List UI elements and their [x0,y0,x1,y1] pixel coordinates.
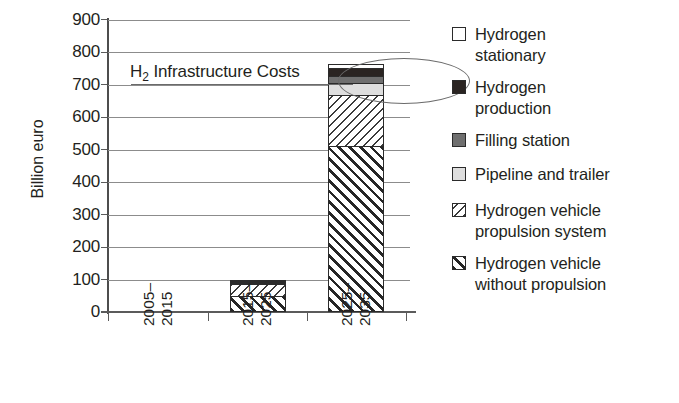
legend-label-line1: Pipeline and trailer [475,164,610,185]
legend-label-filling-station: Filling station [475,130,570,151]
y-axis-tick-labels: 900 800 700 600 500 400 300 200 100 0 [46,0,100,403]
gridline-900 [108,20,410,21]
x-axis-label-2025-2035-b: 2035 [356,326,426,396]
annotation-leader-line [131,84,353,85]
legend-item-pipeline-and-trailer[interactable]: Pipeline and trailer [452,164,679,185]
x-axis-label-2005-2015-line1: 2005– [140,256,158,326]
annotation-ellipse-highlight [338,58,470,104]
segment-hydrogen-vehicle-propulsion-system [328,95,384,146]
y-tick-label-600: 600 [56,108,100,125]
legend-label-line2: without propulsion [475,274,606,295]
y-tick-label-700: 700 [56,76,100,93]
x-axis-label-2005-2015-b: 2015 [158,326,228,396]
x-axis-label-2005-2015-line2: 2015 [158,256,176,326]
light-gray-swatch-icon [452,167,466,181]
annotation-text-subscript: 2 [142,70,149,84]
legend-item-filling-station[interactable]: Filling station [452,130,679,151]
legend-label-line1: Hydrogen vehicle [475,253,606,274]
gridline-800 [108,52,410,53]
y-tick-label-0: 0 [56,303,100,320]
stacked-bar-chart-figure: 900 800 700 600 500 400 300 200 100 0 Bi… [0,0,679,403]
x-axis-label-2015-2025-b: 2025 [257,326,327,396]
x-tick-mark [406,312,407,321]
legend-label-line1: Hydrogen [475,77,551,98]
backward-hatch-swatch-icon [452,203,466,217]
legend-label-hydrogen-vehicle-propulsion-system: Hydrogen vehicle propulsion system [475,200,606,242]
white-swatch-icon [452,27,466,41]
y-tick-label-200: 200 [56,238,100,255]
chart-legend: Hydrogen stationary Hydrogen production … [452,24,679,306]
y-tick-label-400: 400 [56,173,100,190]
legend-item-hydrogen-vehicle-propulsion-system[interactable]: Hydrogen vehicle propulsion system [452,200,679,242]
x-axis-label-2025-2035-line2: 2035 [356,256,374,326]
forward-hatch-swatch-icon [452,256,466,270]
x-axis-label-2015-2025-line2: 2025 [257,256,275,326]
x-tick-mark [108,312,109,321]
legend-label-line2: stationary [475,45,546,66]
y-axis-title: Billion euro [29,59,47,259]
legend-label-line2: propulsion system [475,221,606,242]
legend-label-hydrogen-vehicle-without-propulsion: Hydrogen vehicle without propulsion [475,253,606,295]
legend-label-line1: Hydrogen vehicle [475,200,606,221]
black-swatch-icon [452,80,466,94]
annotation-text-suffix: Infrastructure Costs [149,62,300,81]
legend-label-line1: Filling station [475,130,570,151]
legend-label-line2: production [475,98,551,119]
legend-item-hydrogen-vehicle-without-propulsion[interactable]: Hydrogen vehicle without propulsion [452,253,679,295]
y-tick-label-500: 500 [56,141,100,158]
x-tick-mark [307,312,308,321]
y-tick-label-900: 900 [56,11,100,28]
dark-gray-swatch-icon [452,133,466,147]
y-tick-label-800: 800 [56,43,100,60]
annotation-text-prefix: H [130,62,142,81]
x-axis-label-2015-2025-line1: 2015– [239,256,257,326]
legend-item-hydrogen-production[interactable]: Hydrogen production [452,77,679,119]
y-tick-label-300: 300 [56,206,100,223]
legend-item-hydrogen-stationary[interactable]: Hydrogen stationary [452,24,679,66]
legend-label-line1: Hydrogen [475,24,546,45]
y-tick-label-100: 100 [56,271,100,288]
legend-label-hydrogen-production: Hydrogen production [475,77,551,119]
chart-annotation-label: H2 Infrastructure Costs [130,62,300,84]
legend-label-pipeline-and-trailer: Pipeline and trailer [475,164,610,185]
x-axis-label-2025-2035-line1: 2025– [338,256,356,326]
x-tick-mark [208,312,209,321]
legend-label-hydrogen-stationary: Hydrogen stationary [475,24,546,66]
